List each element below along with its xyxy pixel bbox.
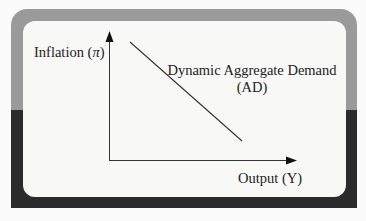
y-axis-label: Inflation (π)	[34, 44, 105, 61]
ad-curve-diagram: Inflation (π) Dynamic Aggregate Demand (…	[0, 0, 366, 221]
diagram-figure: Inflation (π) Dynamic Aggregate Demand (…	[0, 0, 366, 221]
y-axis-arrow-icon	[106, 31, 114, 42]
ad-curve-line	[130, 42, 242, 141]
x-axis-arrow-icon	[286, 157, 297, 165]
x-axis-label: Output (Y)	[238, 170, 302, 187]
ad-curve-label-line2: (AD)	[237, 79, 268, 96]
ad-curve-label-line1: Dynamic Aggregate Demand	[167, 62, 337, 78]
